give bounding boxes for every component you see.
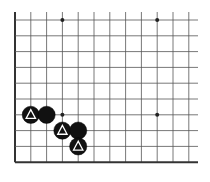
hoshi-point-icon	[155, 18, 159, 22]
black-stone	[38, 106, 55, 123]
board-grid	[15, 12, 198, 162]
black-stone	[54, 122, 71, 139]
stone-icon	[38, 106, 55, 123]
hoshi-point-icon	[155, 113, 159, 117]
go-board	[0, 0, 210, 182]
hoshi-point-icon	[60, 18, 64, 22]
black-stone	[70, 138, 87, 155]
black-stone	[70, 122, 87, 139]
black-stone	[22, 106, 39, 123]
stone-icon	[70, 122, 87, 139]
hoshi-point-icon	[60, 113, 64, 117]
